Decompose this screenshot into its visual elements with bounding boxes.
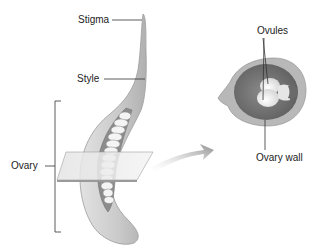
leader-lines: [45, 20, 268, 232]
ovary-bracket: [55, 101, 61, 232]
label-style: Style: [77, 73, 99, 85]
label-ovary: Ovary: [11, 160, 38, 172]
ovule-lower: [257, 89, 279, 107]
section-plane: [57, 152, 153, 182]
arrow-icon: [150, 144, 214, 172]
pistil-diagram: [0, 0, 321, 250]
label-stigma: Stigma: [78, 14, 109, 26]
label-ovary-wall: Ovary wall: [256, 152, 303, 164]
cross-section: [218, 58, 306, 126]
label-ovules: Ovules: [257, 25, 288, 37]
pistil: [80, 14, 146, 244]
